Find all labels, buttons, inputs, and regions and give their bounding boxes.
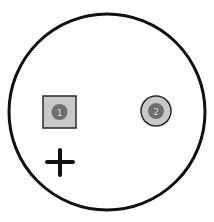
- pin-1-label: 1: [57, 108, 63, 118]
- pin-2: 2: [141, 96, 171, 126]
- pin-1: 1: [43, 96, 76, 128]
- capacitor-footprint-diagram: 1 2: [0, 0, 214, 222]
- component-outline: [9, 14, 205, 210]
- pin-2-label: 2: [153, 107, 159, 117]
